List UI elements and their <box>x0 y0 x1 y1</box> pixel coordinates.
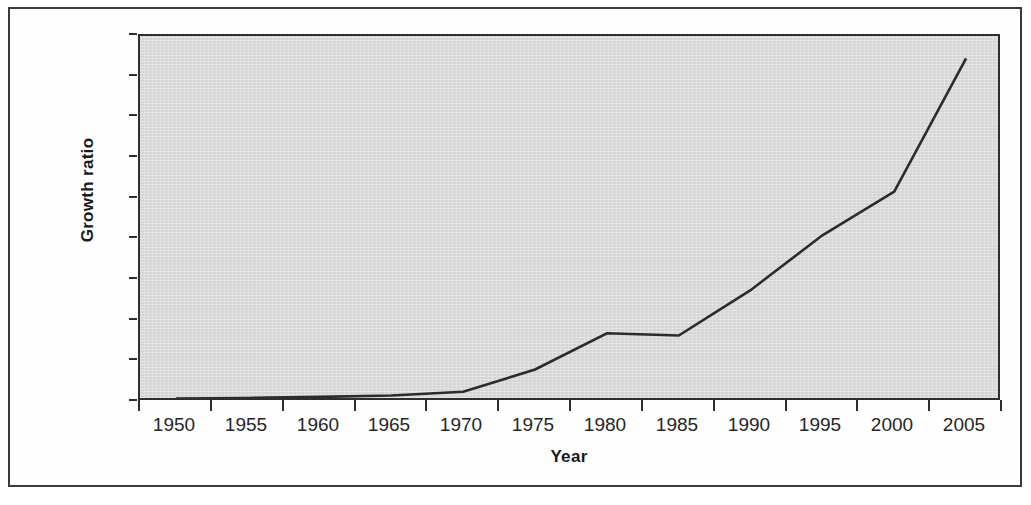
x-tick-mark <box>785 400 787 411</box>
y-tick-mark <box>129 358 137 360</box>
plot-area <box>138 34 1000 400</box>
y-tick-mark <box>129 114 137 116</box>
y-tick-mark <box>129 74 137 76</box>
y-tick-mark <box>129 277 137 279</box>
y-tick-mark <box>129 318 137 320</box>
x-tick-mark <box>497 400 499 411</box>
y-tick-mark <box>129 236 137 238</box>
y-tick-mark <box>129 33 137 35</box>
series-line-growth-ratio <box>140 36 1000 400</box>
x-tick-label: 2005 <box>919 414 1009 436</box>
x-tick-mark <box>210 400 212 411</box>
x-axis-title: Year <box>138 447 1000 467</box>
y-tick-mark <box>129 399 137 401</box>
x-tick-mark <box>282 400 284 411</box>
x-tick-mark <box>569 400 571 411</box>
y-tick-mark <box>129 155 137 157</box>
x-tick-mark <box>354 400 356 411</box>
x-tick-mark <box>1000 400 1002 411</box>
chart-figure: Growth ratio 0,020,040,060,080,0100,0120… <box>0 0 1031 505</box>
x-tick-mark <box>425 400 427 411</box>
x-tick-mark <box>713 400 715 411</box>
x-tick-mark <box>138 400 140 411</box>
x-tick-mark <box>856 400 858 411</box>
y-axis-ticks: 0,020,040,060,080,0100,0120,0140,0160,01… <box>0 0 138 505</box>
x-tick-mark <box>928 400 930 411</box>
x-tick-mark <box>641 400 643 411</box>
y-tick-mark <box>129 196 137 198</box>
